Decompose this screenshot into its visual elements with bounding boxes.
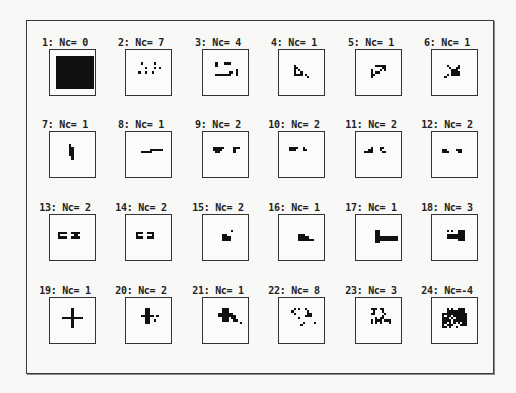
pattern-label: 21: Nc= 1 — [180, 285, 256, 296]
pattern-cell-19: 19: Nc= 1 — [27, 285, 103, 365]
pattern-cell-2: 2: Nc= 7 — [103, 37, 179, 117]
pattern-cell-3: 3: Nc= 4 — [180, 37, 256, 117]
pixel-grid — [357, 133, 400, 176]
pixel-grid — [51, 133, 94, 176]
pattern-box — [202, 214, 249, 261]
pixel-grid — [204, 133, 247, 176]
pattern-cell-17: 17: Nc= 1 — [333, 202, 409, 282]
pattern-box — [125, 49, 172, 96]
pattern-box — [431, 131, 478, 178]
pixel-grid — [280, 51, 323, 94]
pixel-grid — [433, 216, 476, 259]
pattern-box — [431, 49, 478, 96]
pattern-label: 20: Nc= 2 — [103, 285, 179, 296]
pixel-grid — [280, 133, 323, 176]
pattern-cell-1: 1: Nc= 0 — [27, 37, 103, 117]
pattern-label: 1: Nc= 0 — [27, 37, 103, 48]
pixel-grid — [357, 299, 400, 342]
pattern-cell-24: 24: Nc=-4 — [409, 285, 485, 365]
pixel-grid — [51, 216, 94, 259]
pattern-cell-7: 7: Nc= 1 — [27, 119, 103, 199]
pattern-cell-18: 18: Nc= 3 — [409, 202, 485, 282]
pattern-box — [125, 131, 172, 178]
pixel-grid — [280, 216, 323, 259]
pattern-cell-11: 11: Nc= 2 — [333, 119, 409, 199]
pattern-box — [202, 49, 249, 96]
pixel-grid — [127, 216, 170, 259]
pattern-label: 16: Nc= 1 — [256, 202, 332, 213]
pattern-cell-5: 5: Nc= 1 — [333, 37, 409, 117]
pixel-grid — [127, 133, 170, 176]
pattern-label: 15: Nc= 2 — [180, 202, 256, 213]
pixel-grid — [204, 51, 247, 94]
pattern-label: 24: Nc=-4 — [409, 285, 485, 296]
pattern-box — [49, 214, 96, 261]
pattern-label: 3: Nc= 4 — [180, 37, 256, 48]
pattern-cell-9: 9: Nc= 2 — [180, 119, 256, 199]
pattern-box — [278, 131, 325, 178]
pattern-label: 19: Nc= 1 — [27, 285, 103, 296]
pattern-box — [355, 297, 402, 344]
pattern-cell-10: 10: Nc= 2 — [256, 119, 332, 199]
pattern-box — [431, 297, 478, 344]
pattern-label: 18: Nc= 3 — [409, 202, 485, 213]
pixel-grid — [51, 299, 94, 342]
pattern-box — [278, 297, 325, 344]
pattern-cell-6: 6: Nc= 1 — [409, 37, 485, 117]
pattern-box — [49, 49, 96, 96]
pattern-cell-21: 21: Nc= 1 — [180, 285, 256, 365]
pattern-label: 6: Nc= 1 — [409, 37, 485, 48]
pixel-grid — [357, 216, 400, 259]
pixel-grid — [204, 299, 247, 342]
pattern-cell-16: 16: Nc= 1 — [256, 202, 332, 282]
pattern-cell-13: 13: Nc= 2 — [27, 202, 103, 282]
pattern-box — [355, 131, 402, 178]
pattern-label: 5: Nc= 1 — [333, 37, 409, 48]
pattern-box — [278, 214, 325, 261]
pattern-cell-4: 4: Nc= 1 — [256, 37, 332, 117]
pattern-cell-8: 8: Nc= 1 — [103, 119, 179, 199]
pixel-grid — [280, 299, 323, 342]
pattern-box — [202, 297, 249, 344]
pixel-grid — [357, 51, 400, 94]
pattern-box — [431, 214, 478, 261]
pattern-box — [49, 131, 96, 178]
pattern-cell-14: 14: Nc= 2 — [103, 202, 179, 282]
pattern-cell-20: 20: Nc= 2 — [103, 285, 179, 365]
pattern-label: 8: Nc= 1 — [103, 119, 179, 130]
pattern-label: 10: Nc= 2 — [256, 119, 332, 130]
pattern-label: 17: Nc= 1 — [333, 202, 409, 213]
pattern-label: 12: Nc= 2 — [409, 119, 485, 130]
pattern-box — [355, 214, 402, 261]
pattern-cell-23: 23: Nc= 3 — [333, 285, 409, 365]
pattern-label: 13: Nc= 2 — [27, 202, 103, 213]
pattern-box — [278, 49, 325, 96]
pattern-cell-22: 22: Nc= 8 — [256, 285, 332, 365]
pattern-label: 4: Nc= 1 — [256, 37, 332, 48]
pixel-grid — [433, 299, 476, 342]
pattern-cell-15: 15: Nc= 2 — [180, 202, 256, 282]
pattern-box — [202, 131, 249, 178]
pattern-label: 7: Nc= 1 — [27, 119, 103, 130]
pixel-grid — [127, 51, 170, 94]
pattern-box — [355, 49, 402, 96]
pixel-grid — [433, 133, 476, 176]
pattern-box — [125, 297, 172, 344]
figure-frame: 1: Nc= 02: Nc= 73: Nc= 44: Nc= 15: Nc= 1… — [26, 20, 494, 374]
pixel-grid — [51, 51, 94, 94]
pixel-grid — [204, 216, 247, 259]
pixel-grid — [127, 299, 170, 342]
pattern-label: 22: Nc= 8 — [256, 285, 332, 296]
pattern-label: 23: Nc= 3 — [333, 285, 409, 296]
pixel-grid — [433, 51, 476, 94]
pattern-label: 2: Nc= 7 — [103, 37, 179, 48]
pattern-label: 9: Nc= 2 — [180, 119, 256, 130]
pattern-label: 14: Nc= 2 — [103, 202, 179, 213]
pattern-box — [49, 297, 96, 344]
pattern-label: 11: Nc= 2 — [333, 119, 409, 130]
pattern-box — [125, 214, 172, 261]
pattern-cell-12: 12: Nc= 2 — [409, 119, 485, 199]
